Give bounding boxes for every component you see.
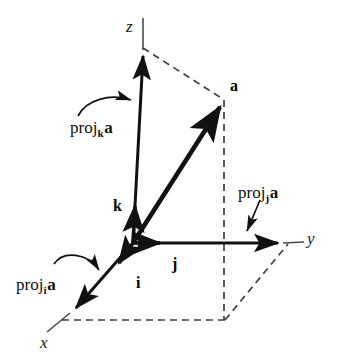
proj-k-callout-arrow: [78, 97, 131, 116]
proj-j-prefix: proj: [238, 183, 265, 202]
axis-label-z: z: [126, 18, 133, 35]
projection-label-proj-j-a: projja: [238, 184, 278, 204]
axis-label-x: x: [40, 334, 48, 351]
dash-z-to-a: [143, 48, 223, 99]
axis-label-y: y: [307, 230, 315, 247]
proj-k-operand: a: [104, 118, 113, 137]
proj-i-prefix: proj: [16, 275, 43, 294]
vector-label-j: j: [172, 256, 177, 272]
proj-i-operand: a: [47, 275, 56, 294]
vector-a-arrow: [133, 107, 220, 243]
basis-vector-k: [133, 206, 135, 243]
vector-label-k: k: [113, 198, 122, 214]
projection-label-proj-k-a: projka: [70, 119, 113, 139]
projection-label-proj-i-a: projia: [16, 276, 56, 296]
dash-foot-to-y-axis: [225, 244, 288, 320]
proj-j-callout-arrow: [247, 200, 260, 231]
proj-k-prefix: proj: [70, 118, 97, 137]
vector-label-a: a: [230, 78, 238, 94]
proj-k-subscript: k: [97, 127, 103, 139]
diagram-canvas: [0, 0, 338, 362]
vector-label-i: i: [136, 275, 140, 291]
proj-j-operand: a: [269, 183, 278, 202]
vector-projection-figure: z y x a k j i projka projja projia: [0, 0, 338, 362]
x-axis-tail: [47, 313, 70, 332]
y-axis-tail: [283, 242, 304, 243]
proj-i-callout-arrow: [54, 255, 99, 270]
basis-vector-i: [119, 243, 133, 263]
